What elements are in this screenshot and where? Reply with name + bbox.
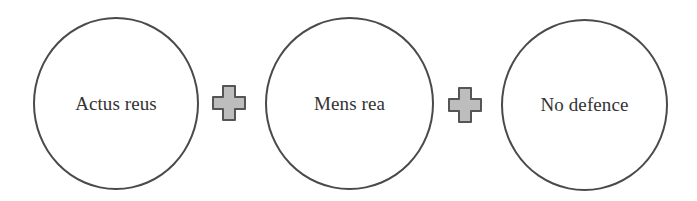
criminal-liability-diagram: Actus reus Mens rea No defence [0,0,697,201]
circle-label-mens-rea: Mens rea [314,93,385,115]
circle-label-no-defence: No defence [540,94,628,116]
circle-label-actus-reus: Actus reus [75,93,157,115]
circle-mens-rea: Mens rea [265,17,434,190]
plus-icon [448,87,482,123]
circle-actus-reus: Actus reus [33,17,199,190]
plus-icon [212,85,246,121]
circle-no-defence: No defence [501,19,668,191]
